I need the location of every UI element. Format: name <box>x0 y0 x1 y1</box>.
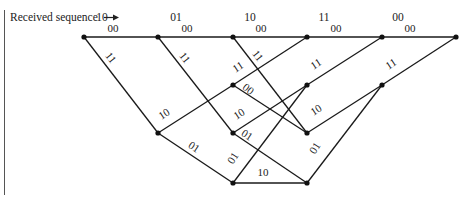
branch-output-label: 00 <box>256 22 268 34</box>
received-symbol: 10 <box>96 11 108 23</box>
branch-output-label: 01 <box>186 139 202 155</box>
trellis-edges <box>84 37 456 183</box>
branch-output-label: 00 <box>240 81 256 98</box>
state-node <box>379 82 384 87</box>
branch-output-label: 01 <box>239 127 255 143</box>
branch-output-label: 11 <box>308 56 323 72</box>
trellis-diagram: Received sequence 1001101100 00000000001… <box>0 0 469 201</box>
received-symbol: 00 <box>392 11 404 23</box>
branch-output-label: 11 <box>103 50 119 66</box>
branch-output-label: 11 <box>177 50 193 66</box>
branch-output-label: 11 <box>230 59 245 75</box>
state-node <box>453 34 458 39</box>
branch-output-label: 01 <box>225 150 241 166</box>
state-node <box>81 34 86 39</box>
state-node <box>230 34 235 39</box>
branch-output-label: 11 <box>383 56 398 72</box>
trellis-nodes <box>81 34 458 185</box>
branch-output-label: 10 <box>258 166 270 178</box>
branch-output-label: 10 <box>231 105 247 121</box>
trellis-branch <box>307 85 382 183</box>
state-node <box>230 82 235 87</box>
state-node <box>304 130 309 135</box>
trellis-branch <box>233 37 307 85</box>
received-sequence-label: Received sequence <box>10 11 98 24</box>
branch-output-label: 01 <box>307 140 323 156</box>
trellis-branch <box>158 85 233 133</box>
branch-output-label: 10 <box>308 101 324 117</box>
branch-output-label: 00 <box>331 22 343 34</box>
received-symbol: 01 <box>170 11 182 23</box>
branch-output-label: 00 <box>405 22 417 34</box>
state-node <box>155 130 160 135</box>
branch-output-label: 11 <box>250 48 266 64</box>
state-node <box>304 180 309 185</box>
received-symbol: 10 <box>244 11 256 23</box>
branch-output-label: 00 <box>182 22 194 34</box>
state-node <box>304 34 309 39</box>
state-node <box>379 34 384 39</box>
state-node <box>304 82 309 87</box>
state-node <box>230 130 235 135</box>
trellis-branch <box>158 37 233 133</box>
received-sequence-values: 1001101100 <box>96 11 404 23</box>
trellis-branch <box>84 37 158 133</box>
branch-output-label: 00 <box>108 22 120 34</box>
received-symbol: 11 <box>318 11 329 23</box>
branch-output-label: 10 <box>156 105 172 121</box>
state-node <box>155 34 160 39</box>
state-node <box>230 180 235 185</box>
trellis-branch <box>233 133 307 183</box>
